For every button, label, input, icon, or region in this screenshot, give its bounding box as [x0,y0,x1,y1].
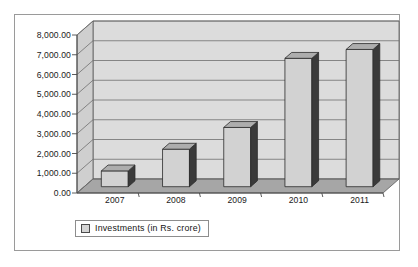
x-axis-tick-label: 2010 [276,195,320,205]
y-axis-tick-label: 7,000.00 [13,50,71,60]
y-axis-tick-label: 5,000.00 [13,89,71,99]
x-axis-tick-label: 2011 [338,195,382,205]
plot-area: 200720082009201020110.001,000.002,000.00… [15,15,401,252]
y-axis-tick-label: 6,000.00 [13,70,71,80]
x-axis-tick-label: 2009 [215,195,259,205]
y-axis-tick-label: 3,000.00 [13,129,71,139]
x-axis-tick-label: 2007 [93,195,137,205]
square-swatch-icon [81,224,90,233]
legend-item-label: Investments (in Rs. crore) [95,223,201,233]
chart-frame: 200720082009201020110.001,000.002,000.00… [14,14,400,251]
y-axis-tick-label: 0.00 [13,188,71,198]
chart-legend: Investments (in Rs. crore) [75,220,209,237]
chart-canvas [15,15,401,252]
x-axis-tick-label: 2008 [154,195,198,205]
y-axis-tick-label: 2,000.00 [13,149,71,159]
y-axis-tick-label: 8,000.00 [13,30,71,40]
y-axis-tick-label: 1,000.00 [13,168,71,178]
y-axis-tick-label: 4,000.00 [13,109,71,119]
